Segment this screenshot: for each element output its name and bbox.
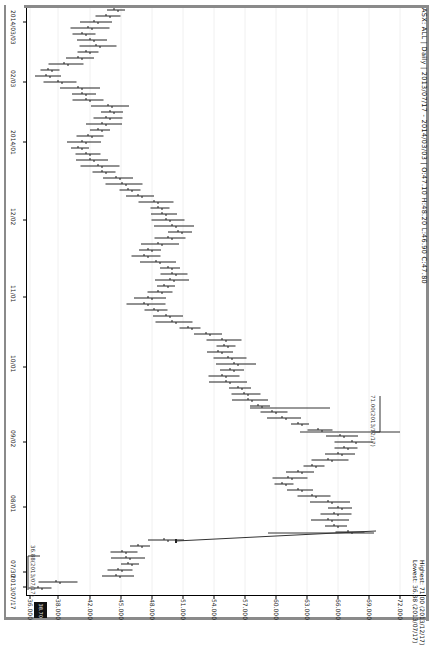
price-axis-label: 66.000 (335, 599, 342, 620)
price-axis-label: 51.000 (180, 599, 187, 620)
time-axis-label: 08/01 (10, 495, 17, 512)
chart-header: ASX: ALL | Daily | 2013/07/17 - 2014/03/… (420, 8, 428, 284)
current-price-marker: 38.70 (34, 602, 47, 618)
price-axis-label: 63.000 (304, 599, 311, 620)
current-price-value: 38.70 (38, 604, 44, 617)
price-axis-label: 45.000 (118, 599, 125, 620)
time-axis-label: 10/01 (10, 355, 17, 372)
price-axis-label: 48.000 (149, 599, 156, 620)
price-axis-label: 38.000 (55, 599, 62, 620)
legend-highest: Highest: 71.00 (2013/12/17) (419, 560, 426, 645)
time-axis-label: 11/01 (10, 285, 17, 302)
time-axis-label: 02/03 (10, 70, 17, 87)
price-axis-label: 72.000 (397, 599, 404, 620)
legend-lowest: Lowest: 36.88 (2013/07/17) (412, 560, 419, 645)
price-axis-label: 60.000 (273, 599, 280, 620)
high-annotation: 71.00(2013/12/17) (370, 395, 376, 447)
time-axis-label: 09/02 (10, 430, 17, 447)
price-axis-label: 57.000 (242, 599, 249, 620)
low-annotation: 36.88(2013/07/17) (30, 545, 36, 597)
price-axis-label: 69.000 (366, 599, 373, 620)
time-axis-label: 12/02 (10, 208, 17, 225)
price-axis-label: 36.000 (27, 599, 34, 620)
time-axis-label: 2014/01 (10, 130, 17, 155)
time-axis-label: 2014/03/03 (10, 10, 17, 45)
time-axis-label: 2013/07/17 (10, 575, 17, 610)
chart-legend: Highest: 71.00 (2013/12/17) Lowest: 36.8… (412, 560, 426, 645)
price-axis-label: 54.000 (211, 599, 218, 620)
price-axis-label: 42.000 (87, 599, 94, 620)
